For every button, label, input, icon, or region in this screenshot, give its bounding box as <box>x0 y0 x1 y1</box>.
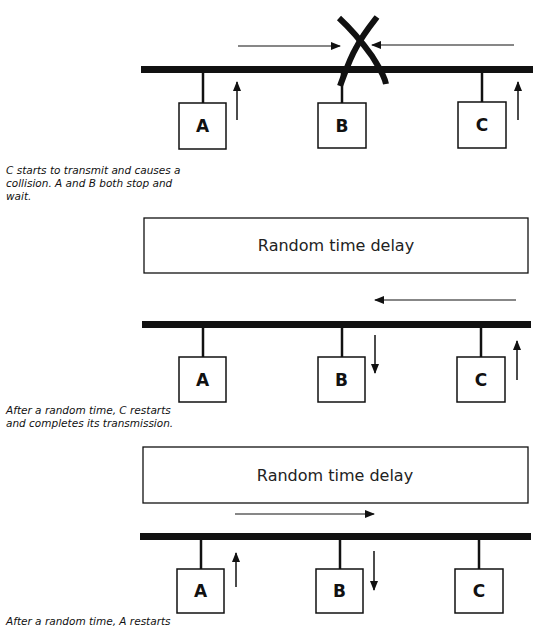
node-b-label: B <box>335 370 348 390</box>
node-b: B <box>318 357 365 402</box>
node-c: C <box>458 102 506 148</box>
caption-panel-1: C starts to transmit and causes a collis… <box>6 164 181 203</box>
node-b: B <box>318 103 366 148</box>
random-delay-box: Random time delay <box>143 447 528 503</box>
node-a-label: A <box>196 116 210 136</box>
collision-x-icon <box>339 17 386 86</box>
node-a: A <box>179 103 226 149</box>
node-c-label: C <box>475 370 487 390</box>
bus-line <box>141 66 533 73</box>
node-b: B <box>316 569 363 613</box>
random-delay-box: Random time delay <box>144 218 528 273</box>
node-c-label: C <box>476 115 488 135</box>
node-c: C <box>457 357 505 402</box>
panel-3-a-retransmits: Random time delay A B C <box>140 447 531 613</box>
node-a-label: A <box>196 370 210 390</box>
delay-label: Random time delay <box>258 236 414 255</box>
caption-panel-2: After a random time, C restarts and comp… <box>6 404 173 430</box>
delay-label: Random time delay <box>257 466 413 485</box>
node-a: A <box>177 569 224 613</box>
node-c: C <box>455 569 503 613</box>
node-b-label: B <box>333 581 346 601</box>
csma-cd-diagram: A B C Random time delay A B <box>0 0 536 631</box>
node-a-label: A <box>194 581 208 601</box>
node-b-label: B <box>336 116 349 136</box>
node-c-label: C <box>473 581 485 601</box>
panel-1-collision: A B C <box>141 17 533 149</box>
panel-2-c-retransmits: Random time delay A B C <box>142 218 531 402</box>
node-a: A <box>179 357 226 402</box>
bus-line <box>142 321 531 328</box>
bus-line <box>140 533 531 540</box>
caption-panel-3: After a random time, A restarts <box>6 615 171 628</box>
